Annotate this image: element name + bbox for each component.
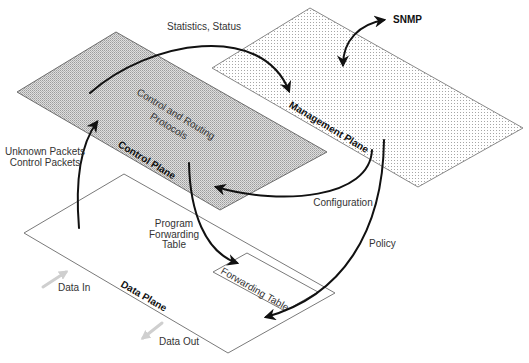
data-out-label: Data Out	[159, 336, 199, 347]
statistics-status-label: Statistics, Status	[167, 21, 241, 32]
table-label: Table	[162, 239, 186, 250]
data-plane-surface	[24, 174, 335, 353]
unknown-packets-label: Unknown Packets	[5, 146, 85, 157]
policy-label: Policy	[369, 238, 396, 249]
program-label: Program	[155, 218, 193, 229]
planes-diagram: Forwarding Table Data Plane Control and …	[0, 0, 529, 363]
snmp-label: SNMP	[393, 14, 422, 25]
data-in-label: Data In	[58, 282, 90, 293]
control-packets-label: Control Packets	[10, 157, 81, 168]
data-plane: Forwarding Table Data Plane	[24, 174, 335, 353]
configuration-label: Configuration	[313, 197, 372, 208]
